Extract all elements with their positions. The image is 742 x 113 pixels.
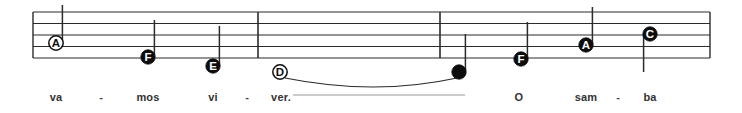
- lyric-syllable: mos: [136, 91, 159, 103]
- slur-ver-to-note: [285, 78, 457, 87]
- staff-lines: [33, 12, 710, 58]
- notehead-letter: F: [144, 51, 151, 63]
- notehead-letter: D: [276, 66, 284, 78]
- notehead-a: A: [49, 36, 63, 50]
- notehead-d: D: [273, 65, 287, 79]
- notehead-letter: A: [582, 39, 590, 51]
- notehead-e: E: [206, 59, 220, 73]
- lyric-hyphen: -: [616, 91, 620, 103]
- lyric-syllable: vi: [208, 91, 218, 103]
- lyric-syllable: O: [515, 91, 524, 103]
- staff-canvas: AFEDFAC: [0, 0, 742, 113]
- lyric-syllable: ba: [643, 91, 656, 103]
- lyric-hyphen: -: [99, 91, 103, 103]
- notehead-plain: [452, 65, 466, 79]
- lyric-syllable: va: [50, 91, 63, 103]
- notehead-letter: E: [209, 60, 217, 72]
- notehead-f: F: [514, 52, 528, 66]
- notehead-letter: A: [52, 37, 60, 49]
- notehead-f: F: [141, 50, 155, 64]
- lyric-syllable: sam: [575, 91, 598, 103]
- notehead-letter: F: [517, 53, 524, 65]
- lyric-hyphen: -: [245, 91, 249, 103]
- slur-group: [285, 78, 457, 87]
- music-notation-figure: AFEDFAC vamosviver.Osamba---: [0, 0, 742, 113]
- notehead-a: A: [579, 38, 593, 52]
- notehead-shape: [452, 65, 466, 79]
- lyric-syllable: ver.: [271, 91, 291, 103]
- notehead-letter: C: [646, 28, 654, 40]
- notehead-c: C: [643, 27, 657, 41]
